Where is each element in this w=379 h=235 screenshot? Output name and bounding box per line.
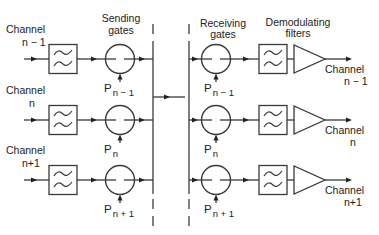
tdm-diagram: Sending gates Receiving gates Demodulati… — [0, 0, 379, 235]
input-channel-index: n − 1 — [22, 36, 46, 48]
sending-filter: band-pass filter — [49, 106, 77, 135]
arrow-right-icon — [192, 178, 198, 183]
receiving-gate — [202, 45, 231, 74]
sending-gate — [106, 45, 135, 74]
arrow-right-icon — [139, 178, 145, 183]
sending-filter: band-pass filter — [49, 45, 77, 74]
amplifier — [294, 166, 325, 194]
arrow-right-icon — [91, 178, 97, 183]
input-channel-label: Channel — [6, 144, 45, 156]
output-channel-index: n+1 — [344, 196, 362, 208]
arrow-right-icon — [346, 118, 352, 123]
arrow-right-icon — [31, 57, 37, 62]
input-channel-label: Channel — [6, 84, 45, 96]
channel-row: Channeln+1band-pass filterPn + 1Pn + 1ba… — [6, 144, 364, 219]
output-channel-label: Channel — [325, 63, 364, 75]
sending-gate — [106, 106, 135, 135]
arrow-right-icon — [164, 95, 170, 100]
arrow-up-icon — [118, 135, 123, 141]
demodulating-filter: band-pass filter — [259, 106, 287, 135]
receiving-gate — [202, 106, 231, 135]
amplifier — [294, 106, 325, 134]
receiving-pulse-label: Pn + 1 — [204, 203, 234, 219]
arrow-right-icon — [91, 118, 97, 123]
amplifier — [294, 45, 325, 73]
channel-row: Channelnband-pass filterPnPnband-pass fi… — [6, 84, 364, 159]
arrow-right-icon — [243, 118, 249, 123]
arrow-right-icon — [192, 57, 198, 62]
sending-filter: band-pass filter — [49, 166, 77, 195]
channel-row: Channeln − 1band-pass filterPn − 1Pn − 1… — [6, 23, 368, 98]
arrow-up-icon — [214, 74, 219, 80]
arrow-right-icon — [346, 57, 352, 62]
receiving-pulse-label: Pn − 1 — [204, 82, 234, 98]
arrow-up-icon — [214, 195, 219, 201]
receiving-gates-header-line2: gates — [210, 28, 236, 40]
output-channel-index: n − 1 — [344, 75, 368, 87]
arrow-right-icon — [243, 178, 249, 183]
demodulating-filters-header-line2: filters — [285, 27, 310, 39]
arrow-right-icon — [91, 57, 97, 62]
tdm-schematic: Sending gates Receiving gates Demodulati… — [0, 0, 379, 235]
arrow-up-icon — [118, 74, 123, 80]
sending-pulse-label: Pn + 1 — [104, 203, 134, 219]
output-channel-label: Channel — [325, 184, 364, 196]
sending-gate — [106, 166, 135, 195]
arrow-up-icon — [118, 195, 123, 201]
input-channel-label: Channel — [6, 23, 45, 35]
receiving-pulse-label: Pn — [204, 143, 218, 159]
output-channel-index: n — [350, 136, 356, 148]
sending-gates-header-line1: Sending — [102, 12, 141, 24]
arrow-right-icon — [31, 118, 37, 123]
input-channel-index: n — [29, 97, 35, 109]
arrow-right-icon — [243, 57, 249, 62]
demodulating-filter: band-pass filter — [259, 45, 287, 74]
arrow-right-icon — [139, 57, 145, 62]
arrow-right-icon — [346, 178, 352, 183]
sending-pulse-label: Pn — [104, 143, 118, 159]
arrow-right-icon — [139, 118, 145, 123]
receiving-gate — [202, 166, 231, 195]
arrow-right-icon — [192, 118, 198, 123]
transmission-link — [153, 95, 185, 100]
arrow-right-icon — [31, 178, 37, 183]
output-channel-label: Channel — [325, 124, 364, 136]
arrow-up-icon — [214, 135, 219, 141]
sending-gates-header-line2: gates — [108, 24, 134, 36]
demodulating-filter: band-pass filter — [259, 166, 287, 195]
input-channel-index: n+1 — [22, 157, 40, 169]
sending-pulse-label: Pn − 1 — [104, 82, 134, 98]
